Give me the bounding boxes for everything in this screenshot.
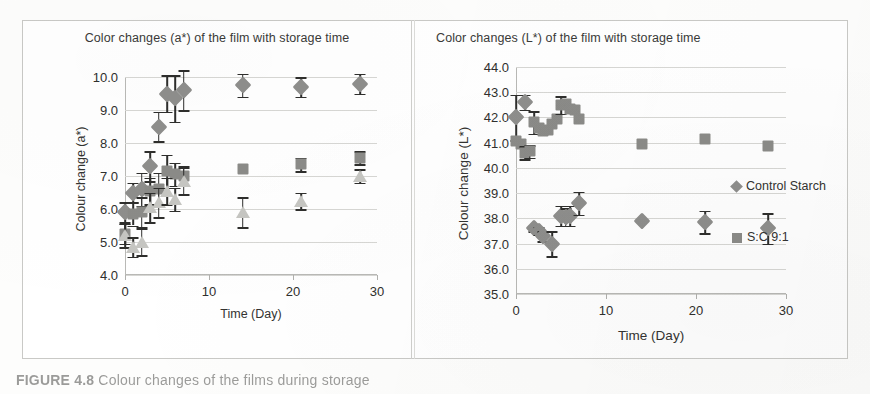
data-point-square	[700, 133, 711, 144]
x-tick	[786, 294, 787, 299]
y-tick-label: 38.0	[484, 211, 509, 226]
data-point-diamond	[508, 109, 525, 126]
error-bar-cap	[529, 111, 540, 113]
chart-panel-l: Color changes (L*) of the film with stor…	[416, 20, 848, 359]
error-bar-cap	[128, 202, 139, 204]
x-tick-label: 30	[779, 303, 793, 318]
x-tick-label: 30	[370, 284, 384, 299]
y-tick-label: 44.0	[484, 60, 509, 75]
error-bar-cap	[700, 233, 711, 235]
y-tick-label: 4.0	[100, 268, 118, 283]
data-point-square	[637, 138, 648, 149]
error-bar-cap	[136, 255, 147, 257]
data-point-diamond	[634, 212, 651, 229]
error-bar-cap	[162, 112, 173, 114]
error-bar-cap	[355, 94, 366, 96]
figure-page: Color changes (a*) of the film with stor…	[0, 0, 870, 394]
y-tick-label: 42.0	[484, 110, 509, 125]
error-bar-cap	[145, 178, 156, 180]
x-tick	[377, 275, 378, 280]
x-tick-label: 10	[202, 284, 216, 299]
error-bar-cap	[162, 178, 173, 180]
figure-caption: FIGURE 4.8 Colour changes of the films d…	[16, 372, 370, 388]
x-tick-label: 10	[599, 303, 613, 318]
gridline	[516, 269, 786, 270]
error-bar-cap	[355, 164, 366, 166]
legend-item-control: Control Starch	[732, 178, 840, 195]
square-marker-icon	[732, 233, 742, 243]
data-point-square	[524, 146, 535, 157]
data-point-square	[355, 152, 366, 163]
data-point-diamond	[571, 195, 588, 212]
gridline	[516, 294, 786, 295]
caption-prefix: FIGURE 4.8	[16, 372, 94, 388]
gridline	[125, 209, 377, 210]
data-point-diamond	[150, 118, 167, 135]
data-point-square	[574, 113, 585, 124]
error-bar-cap	[170, 163, 181, 165]
data-point-square	[237, 164, 248, 175]
x-tick	[293, 275, 294, 280]
x-tick	[516, 294, 517, 299]
x-tick	[696, 294, 697, 299]
y-tick-label: 6.0	[100, 202, 118, 217]
error-bar-cap	[237, 197, 248, 199]
chart-title-l: Color changes (L*) of the film with stor…	[426, 30, 848, 47]
data-point-square	[296, 159, 307, 170]
data-point-triangle	[152, 196, 166, 208]
x-tick-label: 0	[512, 303, 519, 318]
gridline	[125, 275, 377, 276]
error-bar-cap	[145, 193, 156, 195]
x-tick	[209, 275, 210, 280]
x-tick	[606, 294, 607, 299]
error-bar-cap	[237, 227, 248, 229]
y-tick-label: 41.0	[484, 135, 509, 150]
data-point-triangle	[236, 206, 250, 218]
error-bar-cap	[237, 97, 248, 99]
error-bar-cap	[178, 168, 189, 170]
data-point-diamond	[697, 214, 714, 231]
gridline	[125, 77, 377, 78]
y-tick-label: 8.0	[100, 136, 118, 151]
y-tick-label: 39.0	[484, 186, 509, 201]
error-bar-cap	[565, 226, 576, 228]
gridline	[516, 92, 786, 93]
error-bar-cap	[170, 211, 181, 213]
gridline	[516, 67, 786, 68]
chart-legend: Control Starch S:C 9:1	[732, 178, 840, 248]
error-bar-cap	[153, 217, 164, 219]
y-axis-title-l: Colour change (L*)	[456, 98, 471, 268]
error-bar-cap	[136, 229, 147, 231]
data-point-square	[763, 141, 774, 152]
error-bar-cap	[136, 173, 147, 175]
x-tick-label: 20	[689, 303, 703, 318]
error-bar-cap	[136, 197, 147, 199]
data-point-diamond	[517, 94, 534, 111]
panel-divider-shadow	[414, 20, 415, 359]
error-bar-cap	[237, 74, 248, 76]
error-bar-cap	[170, 75, 181, 77]
error-bar-cap	[145, 222, 156, 224]
chart-title-a: Color changes (a*) of the film with stor…	[22, 30, 412, 47]
y-tick-label: 10.0	[93, 70, 118, 85]
error-bar-cap	[355, 183, 366, 185]
error-bar-cap	[296, 97, 307, 99]
legend-label-sc91: S:C 9:1	[747, 229, 789, 246]
y-tick-label: 35.0	[484, 287, 509, 302]
plot-area-a: Colour change (a*) Time (Day) 4.05.06.07…	[125, 77, 377, 275]
gridline	[125, 242, 377, 243]
x-tick	[125, 275, 126, 280]
error-bar-cap	[547, 231, 558, 233]
error-bar-cap	[153, 141, 164, 143]
data-point-triangle	[353, 170, 367, 182]
error-bar-cap	[162, 155, 173, 157]
data-point-triangle	[118, 229, 132, 241]
y-tick-label: 36.0	[484, 261, 509, 276]
y-tick-label: 43.0	[484, 85, 509, 100]
error-bar-cap	[178, 110, 189, 112]
error-bar-cap	[574, 215, 585, 217]
y-tick-label: 5.0	[100, 235, 118, 250]
legend-label-control: Control Starch	[746, 178, 826, 195]
error-bar-cap	[524, 158, 535, 160]
error-bar-cap	[547, 256, 558, 258]
